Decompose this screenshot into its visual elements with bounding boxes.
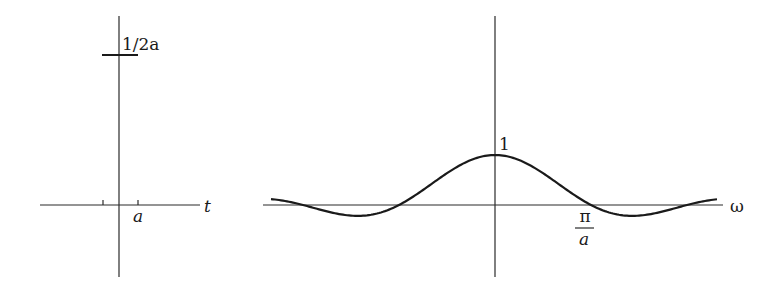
pulse-height-label: 1/2a xyxy=(122,34,160,54)
figure: 1/2a a t 1 π a ω xyxy=(0,0,777,287)
right-panel: 1 π a ω xyxy=(263,16,744,277)
zero-label-denominator: a xyxy=(579,229,589,249)
sinc-curve xyxy=(271,155,717,216)
omega-axis-label: ω xyxy=(730,196,744,216)
zero-label-numerator: π xyxy=(579,206,590,226)
t-axis-label: t xyxy=(204,196,211,216)
left-panel: 1/2a a t xyxy=(40,16,211,277)
peak-label: 1 xyxy=(499,134,510,154)
tick-a-label: a xyxy=(133,206,143,226)
